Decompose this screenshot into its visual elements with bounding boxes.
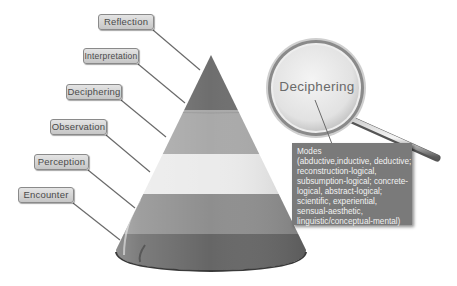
modes-line: linguistic/conceptual-mental) bbox=[297, 217, 408, 227]
label-reflection: Reflection bbox=[98, 14, 154, 30]
modes-line: reconstruction-logical, bbox=[297, 167, 408, 177]
magnifier-title: Deciphering bbox=[276, 79, 358, 94]
modes-line: Modes bbox=[297, 147, 408, 157]
modes-line: sensual-aesthetic, bbox=[297, 207, 408, 217]
modes-line: subsumption-logical; concrete- bbox=[297, 177, 408, 187]
magnifier-icon bbox=[266, 38, 437, 158]
label-interpretation: Interpretation bbox=[83, 48, 139, 64]
modes-line: scientific, experiential, bbox=[297, 197, 408, 207]
label-observation: Observation bbox=[50, 119, 107, 135]
modes-line: (abductive,inductive, deductive; bbox=[297, 157, 408, 167]
label-perception: Perception bbox=[34, 154, 89, 170]
modes-description-box: Modes (abductive,inductive, deductive; r… bbox=[292, 143, 412, 225]
label-deciphering: Deciphering bbox=[66, 84, 122, 100]
label-encounter: Encounter bbox=[18, 187, 74, 203]
modes-line: logical, abstract-logical; bbox=[297, 187, 408, 197]
